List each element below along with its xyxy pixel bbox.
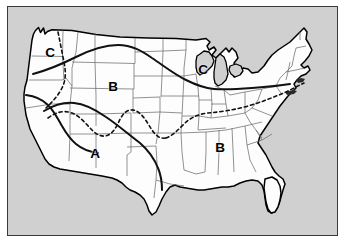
zone-label-b-northern-rockies: B <box>108 80 118 94</box>
map-frame-border <box>7 6 338 236</box>
zone-label-c-pacific-northwest: C <box>45 46 55 60</box>
climate-zone-map-figure: C B C A B <box>0 0 349 248</box>
zone-label-c-great-lakes: C <box>198 63 208 77</box>
zone-label-a-southwest: A <box>90 147 100 161</box>
zone-label-b-southeast: B <box>215 141 225 155</box>
